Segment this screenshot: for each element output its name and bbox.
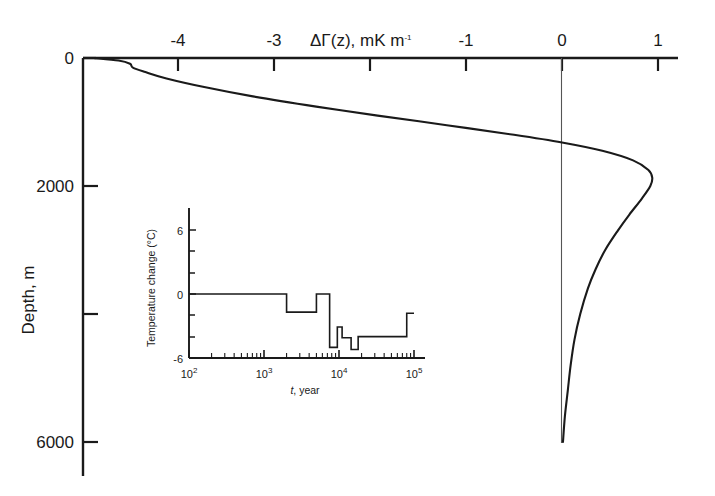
x-axis-title-text: ΔΓ(z), mK m (310, 31, 404, 50)
inset-y-tick-label--6: -6 (173, 353, 183, 365)
x-tick-label-0: 0 (557, 31, 566, 50)
inset-x-tick-label-1e5: 105 (406, 366, 423, 380)
main-axes (83, 58, 678, 476)
y-tick-label-0: 0 (65, 49, 74, 68)
depth-gradient-plot: -4 -3 -1 0 1 ΔΓ(z), mK m-1 0 2000 6000 D… (0, 0, 715, 496)
inset-x-mantissa-1e2: 10 (181, 368, 193, 380)
y-tick-label-2000: 2000 (36, 177, 74, 196)
inset-y-tick-label-6: 6 (177, 225, 183, 237)
x-tick-label-1: 1 (653, 31, 662, 50)
inset-y-axis-title: Temperature change (°C) (145, 229, 157, 347)
temperature-history-step-curve (189, 294, 414, 349)
inset-x-exponent-1e2: 2 (193, 366, 198, 375)
inset-x-tick-label-1e3: 103 (256, 366, 273, 380)
gradient-profile-curve (94, 58, 653, 442)
x-axis-title-exponent: -1 (404, 33, 412, 42)
y-axis-ticks (83, 58, 98, 442)
inset-x-exponent-1e4: 4 (343, 366, 348, 375)
x-axis-title: ΔΓ(z), mK m-1 (310, 31, 412, 50)
inset-x-mantissa-1e5: 10 (406, 368, 418, 380)
inset-x-tick-label-1e2: 102 (181, 366, 198, 380)
x-tick-label--1: -1 (458, 31, 473, 50)
inset-x-tick-label-1e4: 104 (331, 366, 348, 380)
x-tick-label--3: -3 (266, 31, 281, 50)
inset-x-axis-title-rest: , year (293, 384, 320, 396)
inset-y-tick-label-0: 0 (177, 289, 183, 301)
inset-x-exponent-1e5: 5 (418, 366, 423, 375)
inset-x-mantissa-1e4: 10 (331, 368, 343, 380)
x-tick-label--4: -4 (170, 31, 185, 50)
x-axis-ticks (178, 58, 658, 71)
inset-x-exponent-1e3: 3 (268, 366, 273, 375)
inset-x-axis-title: t, year (290, 384, 320, 396)
inset-plot: 6 0 -6 Temperature change (°C) 102 103 1… (145, 208, 425, 396)
inset-x-mantissa-1e3: 10 (256, 368, 268, 380)
y-axis-title: Depth, m (19, 266, 38, 335)
y-tick-label-6000: 6000 (36, 433, 74, 452)
figure-container: -4 -3 -1 0 1 ΔΓ(z), mK m-1 0 2000 6000 D… (0, 0, 715, 496)
inset-x-ticks (189, 350, 414, 358)
